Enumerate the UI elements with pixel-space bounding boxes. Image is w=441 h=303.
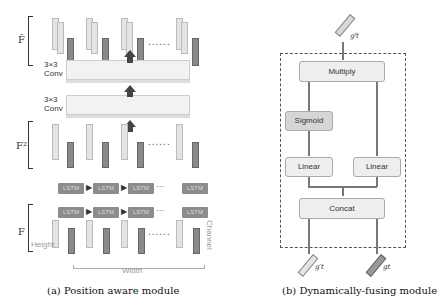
width-label: Width bbox=[122, 266, 142, 275]
sigmoid-node: Sigmoid bbox=[285, 111, 333, 131]
linear-right-node: Linear bbox=[353, 157, 401, 177]
up-arrow-icon bbox=[124, 85, 136, 92]
lstm-cell: LSTM bbox=[93, 207, 119, 218]
feature-column bbox=[86, 220, 93, 248]
feature-column bbox=[137, 142, 144, 168]
feature-column bbox=[192, 142, 199, 168]
connector bbox=[376, 218, 378, 254]
connector bbox=[342, 186, 344, 196]
feature-column bbox=[121, 124, 128, 160]
ellipsis-short: ··· bbox=[156, 182, 164, 191]
multiply-node: Multiply bbox=[299, 61, 385, 82]
conv-top-label-type: Conv bbox=[44, 69, 63, 78]
lstm-cell: LSTM bbox=[182, 207, 208, 218]
f2-bracket bbox=[28, 121, 33, 169]
linear-left-node: Linear bbox=[285, 157, 333, 177]
lstm-cell: LSTM bbox=[128, 183, 154, 194]
connector bbox=[308, 130, 310, 156]
connector bbox=[376, 81, 378, 156]
up-arrow-icon bbox=[124, 50, 136, 57]
right-arrow-icon: ▶ bbox=[86, 183, 92, 192]
feature-column bbox=[138, 228, 145, 254]
f-hat-label: F̂ bbox=[18, 34, 25, 45]
concat-node: Concat bbox=[299, 198, 385, 219]
connector bbox=[308, 176, 310, 187]
feature-column bbox=[103, 228, 110, 254]
f-label: F bbox=[18, 226, 25, 237]
caption-b: (b) Dynamically-fusing module bbox=[282, 285, 437, 296]
f2-label: F² bbox=[16, 140, 27, 151]
feature-column bbox=[86, 124, 93, 160]
right-arrow-icon: ▶ bbox=[121, 183, 127, 192]
feature-column bbox=[192, 38, 199, 66]
input-label-left: g′t bbox=[315, 263, 324, 271]
feature-column bbox=[176, 220, 183, 248]
conv-bottom-label-size: 3×3 bbox=[44, 95, 63, 104]
ellipsis-short: ··· bbox=[156, 206, 164, 215]
feature-column bbox=[121, 220, 128, 248]
f-hat-bracket bbox=[28, 16, 33, 66]
conv-top-label: 3×3 Conv bbox=[44, 60, 63, 78]
channel-label: Channel bbox=[205, 220, 214, 250]
caption-a: (a) Position aware module bbox=[47, 285, 179, 296]
feature-column bbox=[52, 124, 59, 160]
feature-column bbox=[67, 142, 74, 168]
lstm-cell: LSTM bbox=[58, 207, 84, 218]
right-arrow-icon: ▶ bbox=[121, 207, 127, 216]
up-arrow-icon-stem bbox=[127, 57, 133, 63]
lstm-cell: LSTM bbox=[93, 183, 119, 194]
feature-column bbox=[181, 22, 188, 54]
feature-column bbox=[57, 22, 64, 54]
feature-column bbox=[102, 142, 109, 168]
conv-bottom-label: 3×3 Conv bbox=[44, 95, 63, 113]
feature-column bbox=[68, 228, 75, 254]
conv-bottom-label-type: Conv bbox=[44, 104, 63, 113]
lstm-cell: LSTM bbox=[128, 207, 154, 218]
right-arrow-icon: ▶ bbox=[86, 207, 92, 216]
conv-layer-top bbox=[66, 60, 190, 80]
input-label-right: gt bbox=[383, 263, 390, 271]
connector bbox=[308, 218, 310, 254]
feature-column bbox=[91, 22, 98, 54]
feature-column bbox=[176, 124, 183, 160]
output-label: gᶠt bbox=[350, 32, 359, 40]
feature-column bbox=[193, 228, 200, 254]
ellipsis: ...... bbox=[148, 36, 171, 47]
lstm-cell: LSTM bbox=[58, 183, 84, 194]
lstm-cell: LSTM bbox=[182, 183, 208, 194]
up-arrow-icon-stem bbox=[127, 92, 133, 97]
conv-top-label-size: 3×3 bbox=[44, 60, 63, 69]
connector bbox=[342, 42, 344, 60]
conv-layer-bottom bbox=[66, 95, 190, 115]
ellipsis: ...... bbox=[148, 226, 171, 237]
connector bbox=[308, 81, 310, 111]
height-label: Height bbox=[31, 240, 54, 249]
ellipsis: ...... bbox=[148, 136, 171, 147]
connector bbox=[376, 176, 378, 187]
